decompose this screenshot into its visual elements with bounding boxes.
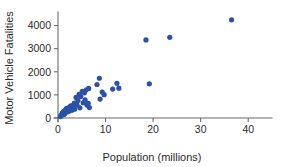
y-tick-label: 0 [45, 112, 51, 124]
y-axis: 01000200030004000 [28, 12, 58, 124]
y-tick-label: 4000 [28, 19, 52, 31]
data-point [110, 87, 115, 92]
data-point [97, 76, 102, 81]
x-tick-label: 30 [195, 123, 207, 135]
data-point [86, 86, 91, 91]
data-point [167, 35, 172, 40]
scatter-chart: 01000200030004000 010203040 Population (… [0, 0, 287, 167]
data-point [102, 92, 107, 97]
chart-canvas: 01000200030004000 010203040 Population (… [0, 0, 287, 167]
data-points [58, 17, 234, 119]
x-tick-label: 40 [242, 123, 254, 135]
data-point [97, 96, 102, 101]
x-tick-label: 10 [100, 123, 112, 135]
data-point [87, 105, 92, 110]
x-tick-label: 20 [147, 123, 159, 135]
data-point [94, 82, 99, 87]
x-tick-label: 0 [55, 123, 61, 135]
x-axis: 010203040 [54, 118, 272, 135]
data-point [147, 81, 152, 86]
y-tick-label: 3000 [28, 42, 52, 54]
y-tick-label: 2000 [28, 66, 52, 78]
data-point [77, 105, 82, 110]
y-axis-title: Motor Vehicle Fatalities [3, 11, 15, 125]
x-axis-title: Population (millions) [102, 151, 201, 163]
data-point [143, 37, 148, 42]
data-point [114, 81, 119, 86]
y-tick-label: 1000 [28, 89, 52, 101]
data-point [229, 17, 234, 22]
data-point [116, 86, 121, 91]
